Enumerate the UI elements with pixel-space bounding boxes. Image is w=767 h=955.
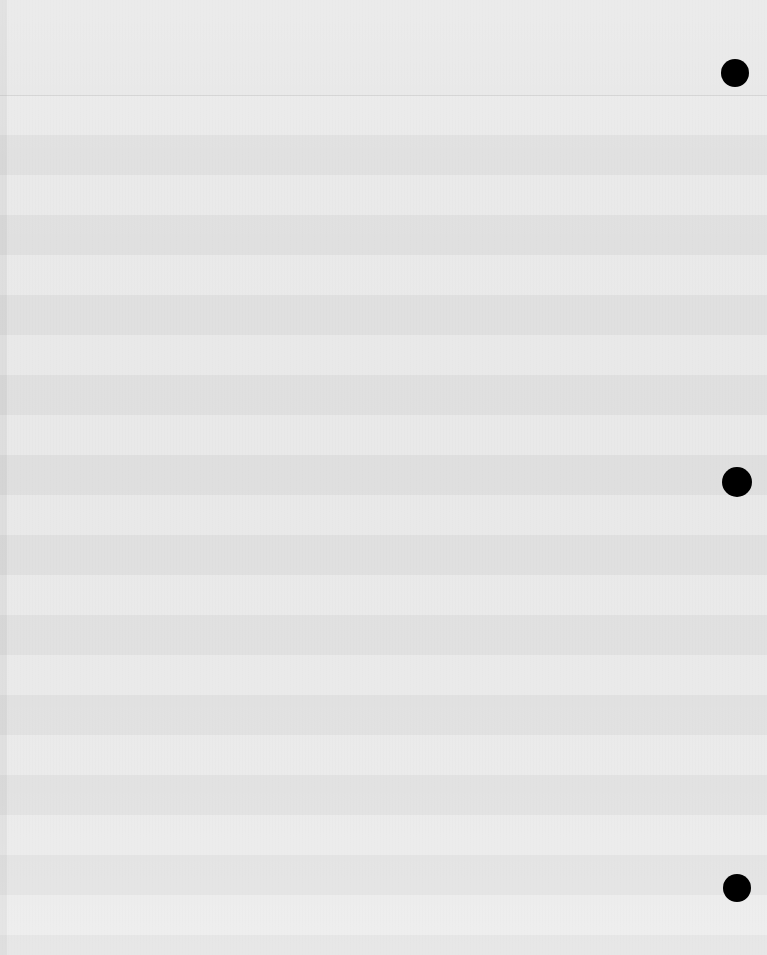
- table-row[interactable]: [0, 695, 767, 735]
- table-row[interactable]: [0, 375, 767, 415]
- table-row[interactable]: [0, 175, 767, 215]
- table-row[interactable]: [0, 655, 767, 695]
- table-row[interactable]: [0, 935, 767, 955]
- table-row[interactable]: [0, 735, 767, 775]
- status-dot-icon[interactable]: [722, 467, 752, 497]
- table-row[interactable]: [0, 895, 767, 935]
- table-row[interactable]: [0, 535, 767, 575]
- status-dot-icon[interactable]: [721, 59, 749, 87]
- table-row[interactable]: [0, 255, 767, 295]
- table-row[interactable]: [0, 415, 767, 455]
- screen-root: [0, 0, 767, 955]
- table-row[interactable]: [0, 855, 767, 895]
- table-row[interactable]: [0, 95, 767, 135]
- table-row[interactable]: [0, 295, 767, 335]
- table-row[interactable]: [0, 775, 767, 815]
- status-dot-icon[interactable]: [723, 874, 751, 902]
- table-row[interactable]: [0, 335, 767, 375]
- table-row[interactable]: [0, 455, 767, 495]
- table-row[interactable]: [0, 215, 767, 255]
- table-row[interactable]: [0, 495, 767, 535]
- table-row[interactable]: [0, 575, 767, 615]
- table-row[interactable]: [0, 615, 767, 655]
- list-row-stack: [0, 0, 767, 955]
- table-row[interactable]: [0, 135, 767, 175]
- left-gutter-strip: [0, 0, 7, 955]
- table-row[interactable]: [0, 815, 767, 855]
- header-band: [0, 0, 767, 95]
- header-divider: [0, 95, 767, 96]
